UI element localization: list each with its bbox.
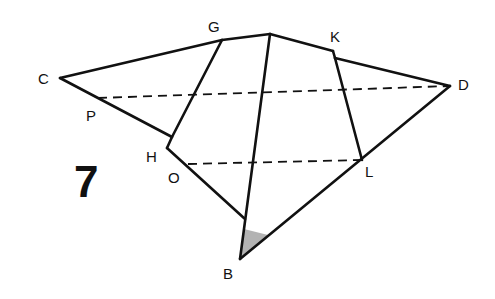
segment-c-g [60,40,222,78]
figure-number: 7 [74,157,98,206]
label-o: O [168,169,180,186]
segment-t-b [240,34,270,259]
segment-g-h1 [172,40,222,137]
label-k: K [330,28,340,45]
segment-d-b [240,86,450,259]
segment-t-k [270,34,333,51]
solid-edges [60,34,450,259]
dashed-segment-o-l [188,160,362,164]
label-h: H [146,148,157,165]
segment-c-h1 [60,78,172,137]
label-g: G [208,18,220,35]
label-d: D [458,76,469,93]
segment-k2-d [335,58,450,86]
segment-g-t [222,34,270,40]
label-p: P [86,107,96,124]
segment-h1-h [167,137,172,148]
geometry-diagram: C G K D P H O L B 7 [0,0,495,299]
segment-k2-l [335,58,362,160]
dashed-segment-p-d [98,86,450,98]
label-b: B [223,265,233,282]
label-l: L [365,163,373,180]
label-c: C [38,70,49,87]
